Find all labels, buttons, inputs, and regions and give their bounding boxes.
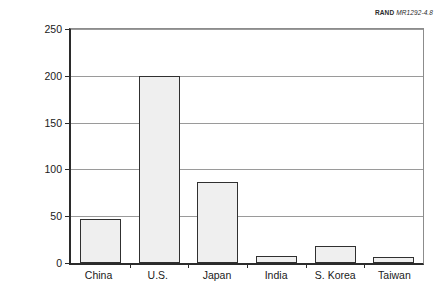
bar-slot — [130, 29, 189, 263]
bar[interactable] — [197, 182, 238, 263]
x-tick-mark — [188, 263, 189, 268]
plot-area: 050100150200250 — [69, 28, 424, 265]
x-tick-mark — [247, 263, 248, 268]
y-tick-label: 50 — [50, 211, 62, 222]
rand-document-id: MR1292-4.8 — [396, 9, 433, 16]
bar[interactable] — [315, 246, 356, 263]
bar[interactable] — [139, 76, 180, 263]
bars-layer — [71, 29, 423, 263]
bar[interactable] — [256, 256, 297, 263]
y-tick-label: 200 — [44, 71, 62, 82]
y-tick-mark — [65, 263, 71, 264]
bar-slot — [247, 29, 306, 263]
bar[interactable] — [80, 219, 121, 263]
x-axis-label: Japan — [187, 269, 246, 282]
x-axis-labels: ChinaU.S.JapanIndiaS. KoreaTaiwan — [69, 269, 424, 282]
rand-source-tag: RANDMR1292-4.8 — [375, 9, 433, 16]
bar-slot — [364, 29, 423, 263]
x-axis-label: U.S. — [128, 269, 187, 282]
bar-slot — [188, 29, 247, 263]
y-tick-label: 150 — [44, 117, 62, 128]
bar-slot — [71, 29, 130, 263]
x-axis-label: S. Korea — [306, 269, 365, 282]
x-tick-mark — [306, 263, 307, 268]
x-axis-label: China — [69, 269, 128, 282]
x-axis-label: Taiwan — [365, 269, 424, 282]
x-axis-label: India — [247, 269, 306, 282]
y-tick-label: 100 — [44, 164, 62, 175]
x-tick-mark — [364, 263, 365, 268]
y-tick-label: 0 — [56, 258, 62, 269]
figure-container: RANDMR1292-4.8 Billions of 1996 PPP doll… — [0, 0, 446, 297]
x-tick-mark — [130, 263, 131, 268]
bar[interactable] — [373, 257, 414, 263]
y-tick-label: 250 — [44, 24, 62, 35]
rand-brand-label: RAND — [375, 9, 394, 16]
bar-slot — [306, 29, 365, 263]
